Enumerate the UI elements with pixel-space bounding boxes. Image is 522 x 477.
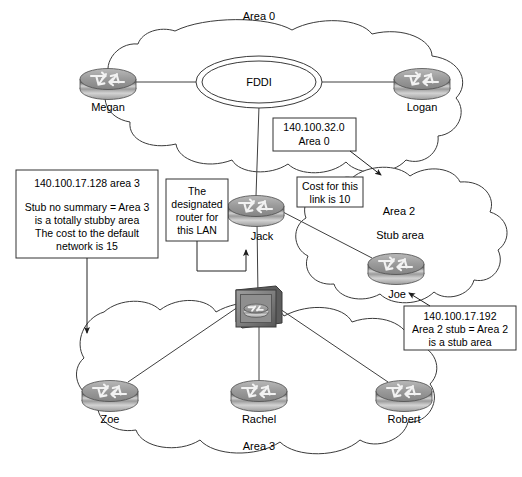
- network-diagram: FDDI Megan Logan Jack Joe Zoe Rachel: [0, 0, 522, 477]
- area-2-label: Area 2: [383, 205, 415, 217]
- annotation-line: router for: [176, 211, 219, 223]
- router-label-robert: Robert: [387, 413, 420, 425]
- annotation-arrow-designated-router: [197, 241, 246, 271]
- annotation-area2-stub-config: 140.100.17.192 Area 2 stub = Area 2 is a…: [404, 293, 516, 350]
- annotation-line: 140.100.17.192: [424, 310, 497, 322]
- router-icon: [231, 381, 287, 412]
- annotation-line: is a stub area: [428, 336, 491, 348]
- annotation-line: network is 15: [56, 240, 118, 252]
- annotation-line: 140.100.17.128 area 3: [34, 177, 140, 189]
- area-0-label: Area 0: [243, 10, 275, 22]
- fddi-label: FDDI: [246, 76, 272, 88]
- lan-switch[interactable]: [236, 286, 282, 328]
- router-icon: [376, 381, 432, 412]
- router-icon: [368, 254, 424, 285]
- diagram-canvas: FDDI Megan Logan Jack Joe Zoe Rachel: [0, 0, 522, 477]
- router-label-joe: Joe: [388, 288, 406, 300]
- fddi-ring: FDDI: [196, 56, 322, 108]
- router-jack[interactable]: Jack: [228, 196, 284, 243]
- annotation-line: The: [188, 185, 206, 197]
- area-3-label: Area 3: [243, 440, 275, 452]
- annotation-line: Stub no summary = Area 3: [25, 201, 150, 213]
- area-2-sublabel: Stub area: [376, 229, 425, 241]
- annotation-line: this LAN: [177, 224, 217, 236]
- annotation-line: Area 0: [299, 135, 330, 147]
- annotation-line: designated: [171, 198, 223, 210]
- annotation-line: The cost to the default: [35, 227, 139, 239]
- annotation-line: is a totally stubby area: [35, 214, 140, 226]
- annotation-line: Area 2 stub = Area 2: [412, 323, 508, 335]
- router-label-zoe: Zoe: [101, 413, 120, 425]
- router-label-megan: Megan: [91, 101, 125, 113]
- router-label-rachel: Rachel: [242, 413, 276, 425]
- router-icon: [82, 381, 138, 412]
- annotation-designated-router: The designated router for this LAN: [166, 179, 246, 271]
- annotation-link-cost: Cost for this link is 10: [297, 177, 363, 207]
- router-icon: [80, 69, 136, 100]
- router-label-logan: Logan: [407, 101, 438, 113]
- router-icon: [394, 69, 450, 100]
- annotation-line: link is 10: [310, 193, 351, 205]
- router-label-jack: Jack: [251, 230, 274, 242]
- annotation-line: Cost for this: [302, 180, 358, 192]
- router-icon: [228, 196, 284, 227]
- annotation-line: 140.100.32.0: [283, 121, 344, 133]
- lan-switch-icon: [236, 286, 282, 328]
